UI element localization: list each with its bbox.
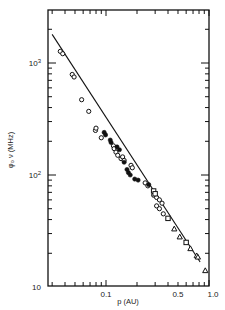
fit-line xyxy=(52,34,200,262)
x-tick-label: 0.5 xyxy=(172,290,184,299)
x-axis-title: p (AU) xyxy=(117,297,139,306)
open-circle-point xyxy=(160,201,164,205)
open-square-point xyxy=(184,240,188,244)
open-circle-point xyxy=(87,109,91,113)
filled-circle-point xyxy=(136,178,140,182)
x-tick-label: 0.1 xyxy=(100,290,112,299)
filled-circle-point xyxy=(122,160,126,164)
filled-circle-point xyxy=(109,140,113,144)
y-tick-label: 103 xyxy=(29,58,42,68)
x-tick-label: 1.0 xyxy=(207,290,219,299)
open-circle-point xyxy=(80,98,84,102)
open-triangle-point xyxy=(177,234,182,239)
open-circle-point xyxy=(161,212,165,216)
x-axis-ticks: 0.10.51.0 xyxy=(52,10,219,299)
open-circle-point xyxy=(130,166,134,170)
y-axis-ticks: 10102103 xyxy=(29,29,209,292)
open-circle-point xyxy=(116,153,120,157)
open-square-point xyxy=(153,192,157,196)
open-circle-point xyxy=(61,52,65,56)
filled-circle-point xyxy=(147,183,151,187)
open-circle-point xyxy=(99,136,103,140)
open-triangle-point xyxy=(188,246,193,251)
open-triangle-point xyxy=(172,226,177,231)
open-circle-point xyxy=(94,126,98,130)
log-log-scatter-chart: 0.10.51.0 10102103 p (AU) φ₀ ν (MHz) xyxy=(0,0,225,310)
y-tick-label: 10 xyxy=(32,283,41,292)
power-law-fit-line xyxy=(52,34,200,262)
open-triangle-point xyxy=(203,268,208,273)
open-circle-point xyxy=(72,75,76,79)
filled-circle-point xyxy=(103,133,107,137)
y-tick-label: 102 xyxy=(29,170,42,180)
open-circle-point xyxy=(157,207,161,211)
y-axis-title: φ₀ ν (MHz) xyxy=(6,131,15,168)
filled-circle-point xyxy=(117,148,121,152)
open-square-point xyxy=(166,216,170,220)
filled-circle-point xyxy=(128,173,132,177)
